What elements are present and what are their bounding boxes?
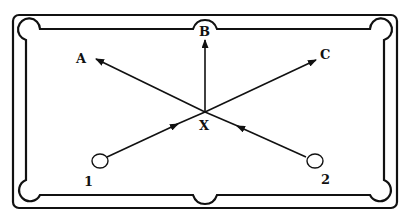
label-ball-2: 2 [321, 172, 330, 187]
path-x-to-c [205, 60, 316, 112]
path-x-to-a [96, 59, 205, 112]
label-b: B [199, 24, 210, 39]
label-a: A [75, 51, 87, 66]
path-2-to-x-b [205, 112, 240, 127]
label-c: C [320, 47, 330, 62]
ball-2 [307, 154, 323, 168]
label-x: X [199, 118, 210, 133]
path-2-to-x-a [237, 126, 306, 157]
pool-table-diagram: A B C X 1 2 [0, 0, 411, 216]
ball-1 [92, 154, 108, 168]
label-ball-1: 1 [84, 174, 93, 189]
path-1-to-x-a [107, 124, 178, 157]
